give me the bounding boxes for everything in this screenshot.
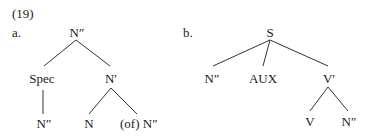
tree-b-label: b. [183, 26, 193, 40]
tree-a-n-node: N [84, 117, 93, 131]
edge-b-vbar-v [310, 87, 328, 111]
tree-b-object-np-node: N″ [342, 115, 357, 129]
tree-a-of-np-node: (of) N″ [120, 117, 158, 131]
example-number: (19) [12, 7, 34, 21]
tree-b-aux-node: AUX [249, 72, 277, 86]
tree-a-root-node: N″ [70, 26, 85, 40]
edge-a-root-nbar [76, 40, 110, 66]
tree-a-nbar-node: N′ [105, 72, 117, 86]
edge-b-s-aux [263, 40, 270, 66]
tree-b-np-node: N″ [205, 72, 220, 86]
edge-b-s-np [213, 40, 270, 66]
edge-a-nbar-n [89, 88, 111, 114]
edge-b-vbar-np [328, 87, 348, 111]
tree-b-vbar-node: V′ [323, 72, 335, 86]
edge-b-s-vbar [270, 40, 328, 66]
tree-a-label: a. [12, 26, 21, 40]
tree-b-root-node: S [266, 26, 273, 40]
edge-a-root-spec [44, 40, 76, 66]
tree-a-spec-child-node: N″ [37, 117, 52, 131]
tree-b-v-node: V [305, 115, 314, 129]
tree-a-spec-node: Spec [29, 72, 54, 86]
edge-a-nbar-of [111, 88, 137, 114]
